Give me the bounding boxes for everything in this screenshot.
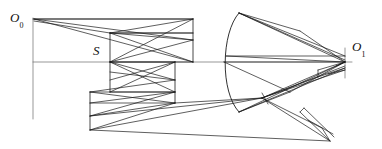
optical-ray-diagram: O0 S O1 [0, 0, 382, 149]
concave-mirror-arc [225, 13, 239, 112]
ray-bundle-lower-right-sliver [300, 108, 334, 141]
ray-bundle-mirror-reflected [224, 13, 345, 112]
ray-bundle-long-to-apex [90, 98, 330, 141]
ray-bundle-apex-fan [262, 62, 345, 141]
label-object-point-O0: O0 [10, 11, 23, 28]
diagram-canvas [0, 0, 382, 149]
ray-bundle-crossing-lower [90, 80, 175, 130]
label-S-base: S [93, 43, 100, 58]
ray-bundle-top-connector [33, 19, 193, 33]
ray-bundle-crossing-upper [110, 19, 193, 62]
ray-bundle-mirror-incident [224, 13, 345, 112]
label-O1-subscript: 1 [361, 50, 365, 59]
label-image-point-O1: O1 [352, 40, 365, 57]
label-O1-base: O [352, 39, 361, 54]
ray-bundle-upper-fan [34, 19, 193, 62]
label-O0-subscript: 0 [19, 21, 23, 30]
label-stop-S: S [93, 44, 100, 57]
label-O0-base: O [10, 10, 19, 25]
